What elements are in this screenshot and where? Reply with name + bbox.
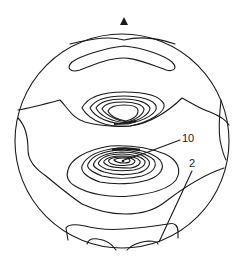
- head-outline: [15, 34, 229, 248]
- contour-label-2: 2: [189, 157, 195, 169]
- contour-upper-5: [108, 105, 138, 121]
- nose-marker-icon: [120, 17, 128, 25]
- contour-label-10: 10: [182, 132, 194, 144]
- topographic-map: 10 2: [0, 0, 238, 268]
- contour-right-side: [219, 100, 226, 160]
- contour-bottom-left-lobe: [87, 239, 116, 250]
- leader-line-2: [159, 171, 192, 242]
- contour-upper-2: [90, 96, 156, 124]
- contour-frontal-inner: [69, 46, 175, 71]
